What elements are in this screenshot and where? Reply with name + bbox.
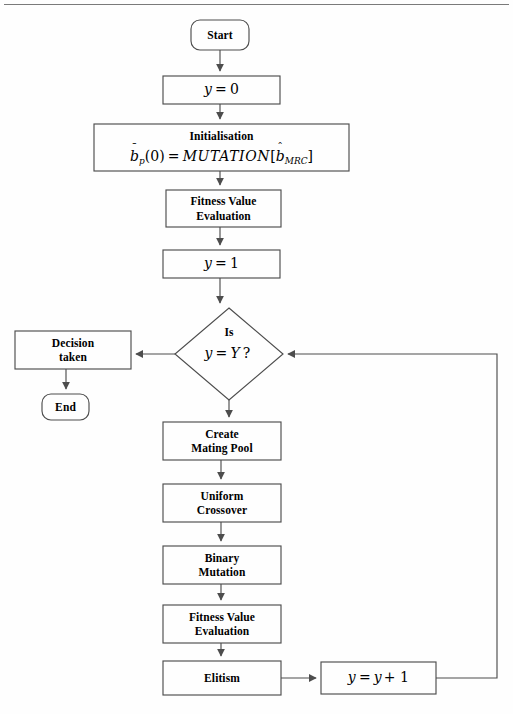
node-binary-mutation [163, 546, 281, 584]
node-fitness-evaluation-2 [163, 605, 281, 643]
node-fitness-evaluation-1 [166, 190, 281, 227]
edge-increment-to-decision-feedback [288, 354, 497, 678]
node-create-mating-pool [163, 422, 281, 460]
node-increment [321, 662, 436, 694]
node-start [191, 20, 249, 50]
node-elitism [163, 661, 281, 695]
node-end [42, 394, 89, 420]
node-decision-taken [15, 331, 131, 369]
node-y-equals-one [163, 250, 280, 278]
flowchart-vector-layer [0, 0, 513, 714]
node-y-equals-zero [163, 76, 280, 104]
node-initialisation [94, 124, 349, 171]
flowchart-canvas: Start y=0 Initialisation ˉbp(0)=MUTATION… [0, 0, 513, 714]
node-uniform-crossover [163, 484, 281, 522]
node-decision-diamond [175, 308, 283, 400]
